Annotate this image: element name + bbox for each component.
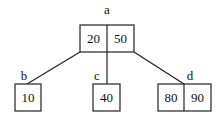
node-a-label: a — [104, 2, 110, 17]
node-b-key-1: 10 — [22, 90, 35, 105]
node-b-label: b — [21, 68, 28, 83]
node-c-key-1: 40 — [100, 90, 113, 105]
node-a-key-1: 20 — [87, 31, 100, 46]
node-c-label: c — [94, 68, 100, 83]
edge-a-b — [27, 52, 80, 84]
node-d-label: d — [187, 68, 194, 83]
btree-diagram: a 20 50 b 10 c 40 d 80 90 — [0, 0, 222, 121]
node-d: d 80 90 — [158, 68, 211, 111]
node-b: b 10 — [15, 68, 41, 111]
node-d-key-1: 80 — [165, 90, 178, 105]
node-a: a 20 50 — [80, 2, 134, 52]
node-d-key-2: 90 — [191, 90, 204, 105]
edge-a-d — [134, 52, 184, 84]
node-a-key-2: 50 — [114, 31, 127, 46]
